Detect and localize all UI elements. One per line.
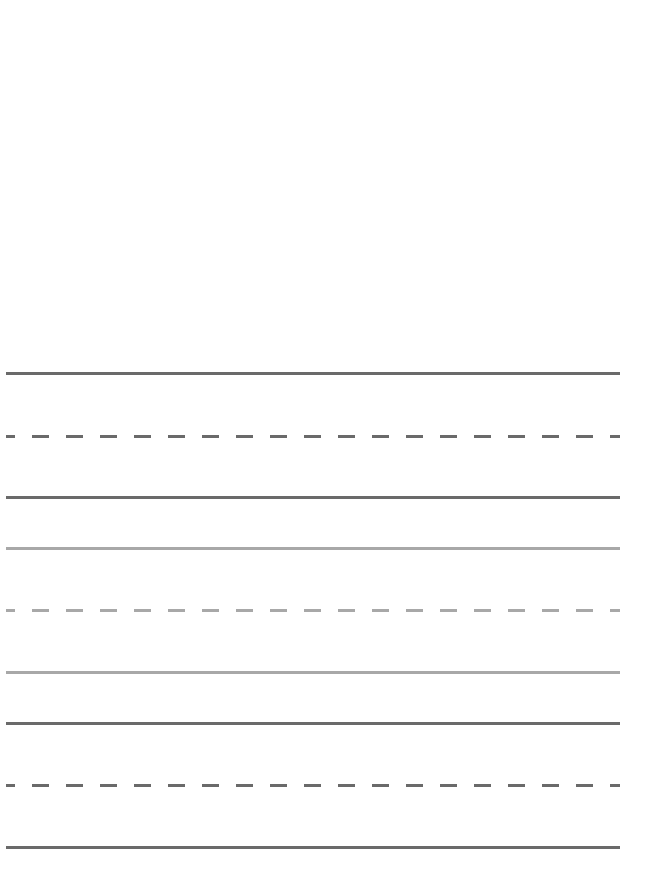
blank-writing-area bbox=[0, 0, 665, 350]
top-line bbox=[6, 372, 620, 375]
baseline bbox=[6, 496, 620, 499]
baseline bbox=[6, 671, 620, 674]
top-line bbox=[6, 547, 620, 550]
midline-dashed bbox=[6, 784, 620, 787]
midline-dashed bbox=[6, 609, 620, 612]
baseline bbox=[6, 846, 620, 849]
midline-dashed bbox=[6, 435, 620, 438]
top-line bbox=[6, 722, 620, 725]
